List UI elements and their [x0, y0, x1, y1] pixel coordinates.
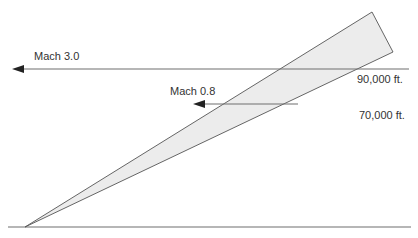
mach-3-label: Mach 3.0: [34, 51, 79, 62]
altitude-90000-label: 90,000 ft.: [357, 74, 403, 85]
diagram-canvas: [0, 0, 418, 238]
sight-wedge: [25, 12, 393, 227]
altitude-70000-label: 70,000 ft.: [359, 110, 405, 121]
mach-0-8-label: Mach 0.8: [170, 86, 215, 97]
